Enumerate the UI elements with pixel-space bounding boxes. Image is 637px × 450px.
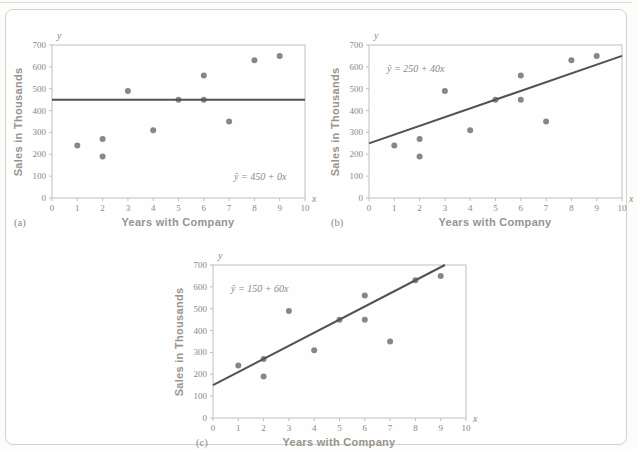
y-tick-label: 0 — [42, 193, 47, 203]
x-tick-label: 4 — [468, 203, 473, 213]
y-tick-label: 400 — [350, 106, 364, 116]
chart-layer: 0123456789100100200300400500600700yx — [350, 30, 635, 213]
data-point — [417, 136, 423, 142]
data-point — [74, 143, 80, 149]
x-tick-label: 0 — [367, 203, 372, 213]
data-point — [277, 53, 283, 59]
panel-label: (a) — [14, 217, 26, 229]
x-tick-label: 4 — [312, 423, 317, 433]
x-tick-label: 7 — [388, 423, 393, 433]
x-tick-label: 6 — [363, 423, 368, 433]
panel-label: (b) — [331, 217, 344, 229]
data-point — [100, 153, 106, 159]
x-tick-label: 9 — [594, 203, 599, 213]
data-point — [311, 347, 317, 353]
data-point — [438, 273, 444, 279]
x-tick-label: 2 — [417, 203, 422, 213]
y-tick-label: 600 — [350, 62, 364, 72]
y-tick-label: 200 — [350, 149, 364, 159]
x-tick-label: 5 — [176, 203, 181, 213]
chart-layer: 0123456789100100200300400500600700yx — [194, 250, 479, 433]
data-point — [362, 293, 368, 299]
y-axis-title: Sales in Thousands — [173, 288, 185, 397]
page-top-rule — [0, 2, 632, 3]
y-tick-label: 400 — [194, 326, 208, 336]
x-axis-title: Years with Company — [283, 436, 397, 448]
data-point — [568, 57, 574, 63]
y-tick-label: 0 — [359, 193, 364, 203]
x-axis-letter: x — [628, 193, 634, 204]
data-point — [518, 73, 524, 79]
y-tick-label: 500 — [194, 304, 208, 314]
regression-equation: ŷ = 450 + 0x — [233, 171, 287, 182]
y-tick-label: 700 — [33, 40, 47, 50]
y-tick-label: 600 — [194, 282, 208, 292]
y-tick-label: 200 — [194, 369, 208, 379]
data-point — [594, 53, 600, 59]
scatter-plot-c: 0123456789100100200300400500600700yx Sal… — [169, 243, 481, 450]
x-tick-label: 8 — [252, 203, 257, 213]
x-tick-label: 1 — [236, 423, 241, 433]
data-point — [543, 119, 549, 125]
x-tick-label: 0 — [50, 203, 55, 213]
data-point — [417, 153, 423, 159]
data-point — [286, 308, 292, 314]
y-tick-label: 500 — [33, 84, 47, 94]
data-point — [442, 88, 448, 94]
data-point — [261, 373, 267, 379]
data-point — [362, 317, 368, 323]
x-tick-label: 8 — [569, 203, 574, 213]
y-axis-letter: y — [373, 30, 379, 41]
regression-equation: ŷ = 250 + 40x — [386, 63, 445, 74]
scatter-panel-c: 0123456789100100200300400500600700yx Sal… — [169, 243, 481, 450]
y-tick-label: 100 — [33, 171, 47, 181]
regression-equation: ŷ = 150 + 60x — [230, 283, 289, 294]
x-tick-label: 2 — [100, 203, 105, 213]
data-point — [150, 127, 156, 133]
x-tick-label: 7 — [227, 203, 232, 213]
data-point — [518, 97, 524, 103]
x-tick-label: 8 — [413, 423, 418, 433]
y-tick-label: 300 — [350, 127, 364, 137]
x-tick-label: 1 — [392, 203, 397, 213]
y-axis-letter: y — [56, 30, 62, 41]
x-axis-title: Years with Company — [439, 216, 553, 228]
y-tick-label: 700 — [350, 40, 364, 50]
y-tick-label: 700 — [194, 260, 208, 270]
x-axis-title: Years with Company — [122, 216, 236, 228]
y-tick-label: 300 — [194, 347, 208, 357]
x-tick-label: 9 — [277, 203, 282, 213]
scatter-plot-a: 0123456789100100200300400500600700yx Sal… — [8, 23, 320, 235]
data-point — [201, 73, 207, 79]
y-axis-title: Sales in Thousands — [12, 68, 24, 177]
scatter-panel-a: 0123456789100100200300400500600700yx Sal… — [8, 23, 320, 235]
x-tick-label: 3 — [443, 203, 448, 213]
y-tick-label: 100 — [194, 391, 208, 401]
scatter-plot-b: 0123456789100100200300400500600700yx Sal… — [325, 23, 637, 235]
data-point — [387, 339, 393, 345]
figure-border-box: 0123456789100100200300400500600700yx Sal… — [5, 9, 627, 445]
x-tick-label: 7 — [544, 203, 549, 213]
x-tick-label: 5 — [337, 423, 342, 433]
y-tick-label: 0 — [203, 413, 208, 423]
x-axis-letter: x — [472, 413, 478, 424]
data-point — [125, 88, 131, 94]
y-tick-label: 100 — [350, 171, 364, 181]
x-tick-label: 10 — [462, 423, 472, 433]
y-tick-label: 200 — [33, 149, 47, 159]
x-tick-label: 2 — [261, 423, 266, 433]
data-point — [391, 143, 397, 149]
x-tick-label: 6 — [519, 203, 524, 213]
y-axis-title: Sales in Thousands — [329, 68, 341, 177]
x-tick-label: 1 — [75, 203, 80, 213]
y-axis-letter: y — [217, 250, 223, 261]
x-tick-label: 3 — [126, 203, 131, 213]
x-tick-label: 3 — [287, 423, 292, 433]
x-tick-label: 9 — [438, 423, 443, 433]
scatter-panel-b: 0123456789100100200300400500600700yx Sal… — [325, 23, 637, 235]
data-point — [467, 127, 473, 133]
x-tick-label: 10 — [618, 203, 628, 213]
data-point — [226, 119, 232, 125]
x-tick-label: 10 — [301, 203, 311, 213]
x-axis-letter: x — [311, 193, 317, 204]
